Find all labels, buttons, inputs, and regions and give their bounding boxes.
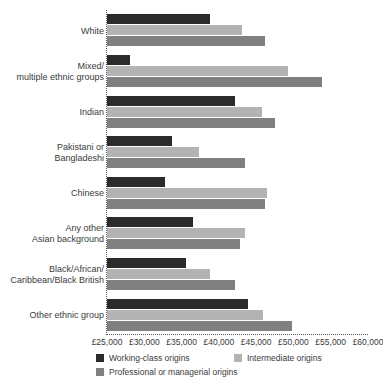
category-label: Indian — [0, 107, 104, 118]
bar — [107, 310, 263, 320]
bar — [107, 36, 265, 46]
bar — [107, 239, 240, 249]
chart-legend: Working-class originsIntermediate origin… — [96, 353, 382, 383]
category-label: Other ethnic group — [0, 310, 104, 321]
bar — [107, 217, 193, 227]
bar — [107, 96, 235, 106]
bar — [107, 118, 275, 128]
legend-item: Working-class origins — [96, 353, 190, 363]
legend-label: Professional or managerial origins — [109, 367, 238, 377]
bar-group — [107, 14, 368, 46]
bar-group — [107, 217, 368, 249]
tick-label: £40,000 — [203, 337, 234, 348]
bar — [107, 158, 245, 168]
value-axis-tick-labels: £25,000£30,000£35,000£40,000£45,000£50,0… — [107, 337, 382, 351]
category-label: White — [0, 26, 104, 37]
bar — [107, 25, 242, 35]
category-label: Chinese — [0, 188, 104, 199]
tick-label: £35,000 — [166, 337, 197, 348]
bar-group — [107, 177, 368, 209]
category-label-line: White — [0, 26, 104, 37]
bar — [107, 258, 186, 268]
category-axis-labels: WhiteMixed/multiple ethnic groupsIndianP… — [0, 10, 104, 335]
tick-label: £50,000 — [278, 337, 309, 348]
bar-group — [107, 96, 368, 128]
legend-label: Intermediate origins — [247, 353, 322, 363]
category-label-line: Caribbean/Black British — [0, 275, 104, 286]
category-label-line: Asian background — [0, 234, 104, 245]
bar-group — [107, 299, 368, 331]
category-label: Any otherAsian background — [0, 223, 104, 245]
tick-label: £60,000 — [353, 337, 383, 348]
bar-group — [107, 258, 368, 290]
tick-label: £30,000 — [129, 337, 160, 348]
category-label-line: Any other — [0, 223, 104, 234]
bar — [107, 107, 262, 117]
bar — [107, 136, 172, 146]
legend-item: Professional or managerial origins — [96, 367, 238, 377]
bar — [107, 269, 210, 279]
bar — [107, 228, 245, 238]
bar — [107, 177, 165, 187]
category-label: Pakistani orBangladeshi — [0, 142, 104, 164]
category-label-line: Black/African/ — [0, 264, 104, 275]
category-label-line: Pakistani or — [0, 142, 104, 153]
bar — [107, 14, 210, 24]
bar — [107, 188, 267, 198]
bar — [107, 66, 288, 76]
category-label-line: Chinese — [0, 188, 104, 199]
category-label-line: Bangladeshi — [0, 153, 104, 164]
tick-label: £55,000 — [315, 337, 346, 348]
bar — [107, 199, 265, 209]
category-label-line: Other ethnic group — [0, 310, 104, 321]
bar-group — [107, 55, 368, 87]
legend-swatch-icon — [96, 368, 104, 376]
bar-group — [107, 136, 368, 168]
legend-swatch-icon — [96, 354, 104, 362]
category-label: Mixed/multiple ethnic groups — [0, 61, 104, 83]
category-label-line: Mixed/ — [0, 61, 104, 72]
plot-area — [107, 10, 368, 335]
legend-item: Intermediate origins — [234, 353, 322, 363]
legend-label: Working-class origins — [109, 353, 190, 363]
legend-swatch-icon — [234, 354, 242, 362]
bar — [107, 147, 199, 157]
category-label-line: Indian — [0, 107, 104, 118]
bar — [107, 55, 130, 65]
category-axis-line — [106, 334, 368, 335]
tick-label: £25,000 — [92, 337, 123, 348]
bar — [107, 77, 322, 87]
bar — [107, 299, 248, 309]
chart-title — [0, 0, 382, 3]
category-label-line: multiple ethnic groups — [0, 72, 104, 83]
category-label: Black/African/Caribbean/Black British — [0, 264, 104, 286]
bar — [107, 280, 235, 290]
bar — [107, 321, 292, 331]
tick-label: £45,000 — [241, 337, 272, 348]
